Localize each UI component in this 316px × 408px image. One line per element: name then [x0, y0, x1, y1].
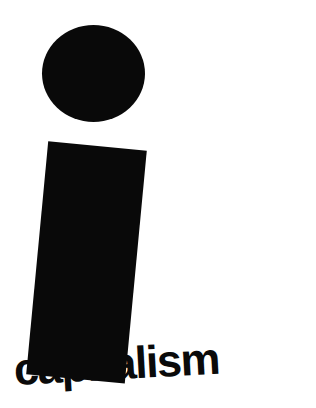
figure-head-circle [42, 25, 145, 122]
figure-body-rectangle [26, 141, 147, 383]
poster-canvas: capitalism [0, 0, 316, 408]
pictogram-figure [0, 0, 316, 408]
